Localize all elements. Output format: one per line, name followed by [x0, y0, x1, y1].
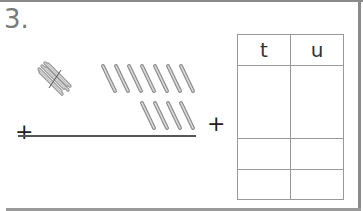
header-tens: t — [238, 35, 291, 66]
frame-top-border — [0, 0, 363, 2]
place-value-table: t u — [237, 34, 344, 200]
tens-bundle-icon — [36, 60, 76, 96]
frame-right-border — [358, 0, 361, 211]
plus-sign-right: + — [207, 113, 225, 135]
frame-bottom-border — [6, 208, 361, 211]
cell-units-row1[interactable] — [291, 66, 344, 139]
cell-tens-row1[interactable] — [238, 66, 291, 139]
header-units: u — [291, 35, 344, 66]
cell-tens-row2[interactable] — [238, 139, 291, 170]
cell-tens-row3[interactable] — [238, 170, 291, 200]
sum-underline — [18, 135, 196, 137]
plus-sign-left: + — [15, 121, 33, 143]
question-number: 3. — [4, 6, 29, 32]
single-sticks-icon — [95, 60, 200, 135]
cell-units-row2[interactable] — [291, 139, 344, 170]
cell-units-row3[interactable] — [291, 170, 344, 200]
